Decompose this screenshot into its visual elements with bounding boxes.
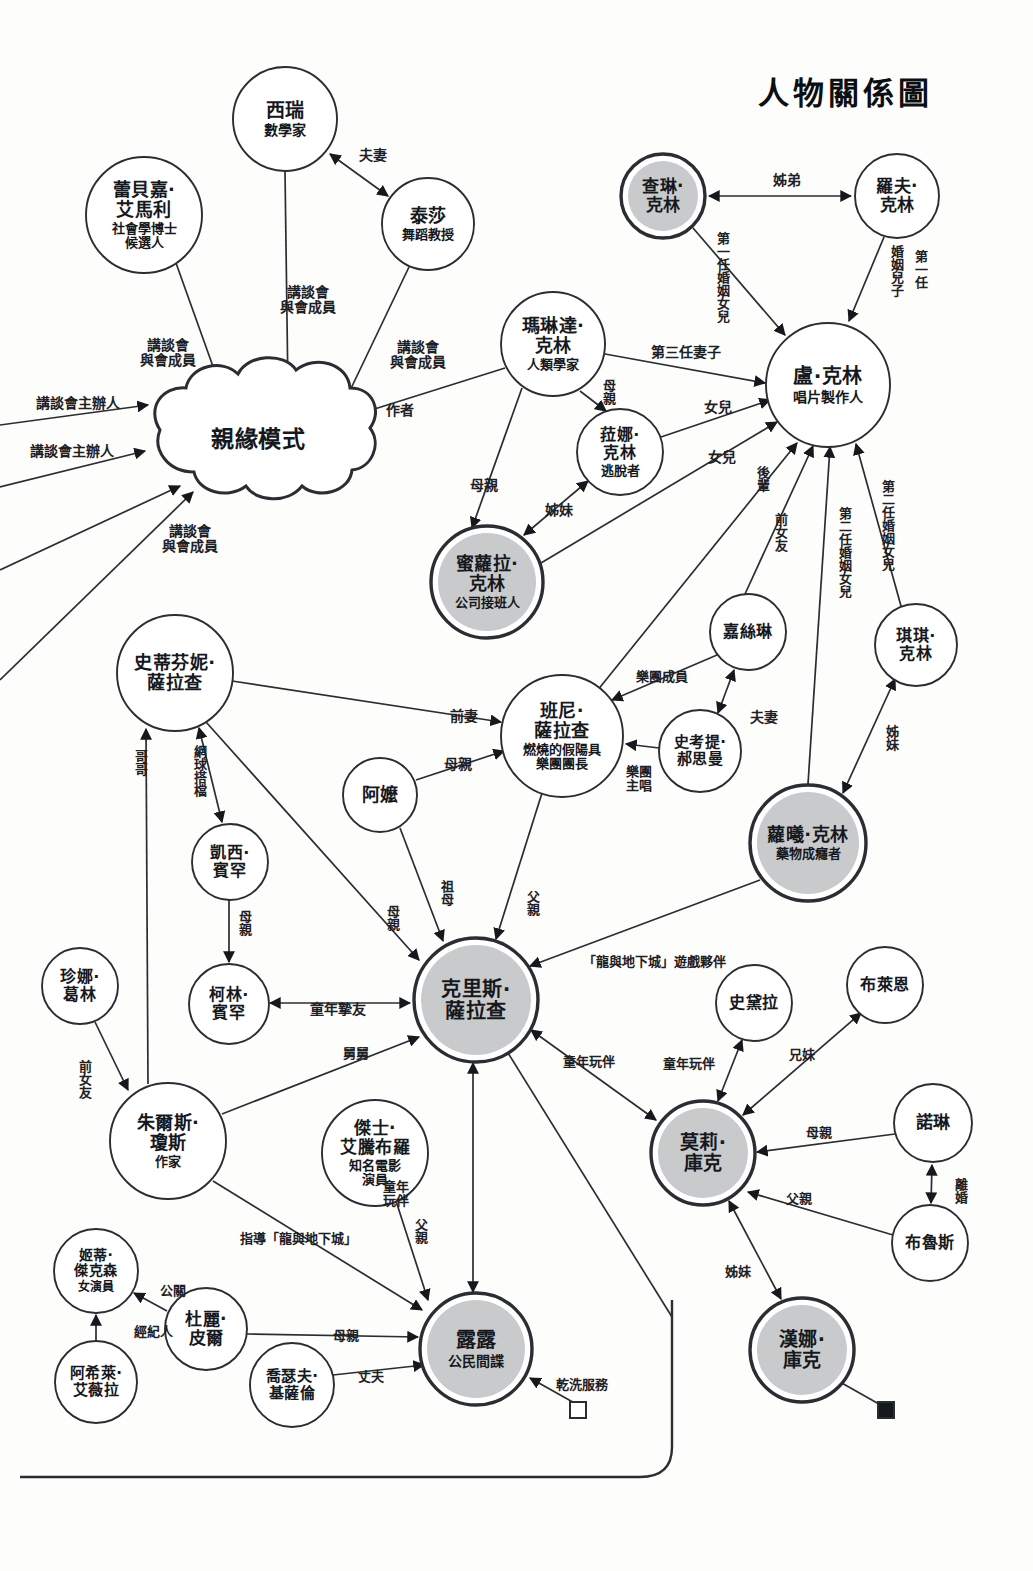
node-circle[interactable]: [855, 154, 939, 238]
node-circle[interactable]: [716, 965, 792, 1041]
node-circle[interactable]: [165, 1288, 247, 1370]
node-circle[interactable]: [54, 1229, 138, 1313]
node-circle-fill: [658, 1108, 748, 1198]
marker-filled-square: [878, 1402, 894, 1418]
node-circle-fill: [421, 945, 531, 1055]
marker-open-square: [570, 1402, 586, 1418]
node-circle[interactable]: [659, 710, 741, 792]
node-circle[interactable]: [192, 824, 268, 900]
node-circle[interactable]: [55, 1341, 137, 1423]
node-circle[interactable]: [250, 1343, 334, 1427]
node-circle-fill: [438, 533, 536, 631]
cloud-node-kinship-model: [155, 358, 376, 499]
node-circle[interactable]: [42, 948, 118, 1024]
relationship-diagram: 人物關係圖: [0, 0, 1033, 1571]
node-circle[interactable]: [710, 594, 786, 670]
node-circle-fill: [757, 792, 859, 894]
node-circle[interactable]: [577, 409, 663, 495]
node-circle-fill: [757, 1305, 847, 1395]
node-circle[interactable]: [894, 1084, 972, 1162]
node-circle[interactable]: [847, 947, 923, 1023]
node-circle[interactable]: [501, 675, 623, 797]
node-circle[interactable]: [382, 178, 474, 270]
node-layer: [42, 67, 972, 1427]
node-circle-fill: [628, 161, 698, 231]
node-circle[interactable]: [501, 292, 605, 396]
node-circle[interactable]: [110, 1083, 226, 1199]
node-circle[interactable]: [189, 964, 269, 1044]
node-circle[interactable]: [766, 323, 890, 447]
node-circle-fill: [427, 1300, 525, 1398]
node-circle[interactable]: [343, 758, 417, 832]
legend-markers: [570, 1402, 894, 1418]
node-circle[interactable]: [322, 1100, 428, 1206]
diagram-canvas: [0, 0, 1033, 1571]
node-circle[interactable]: [86, 157, 202, 273]
node-circle[interactable]: [892, 1205, 968, 1281]
node-circle[interactable]: [875, 604, 957, 686]
node-circle[interactable]: [233, 67, 337, 171]
node-circle[interactable]: [117, 615, 233, 731]
